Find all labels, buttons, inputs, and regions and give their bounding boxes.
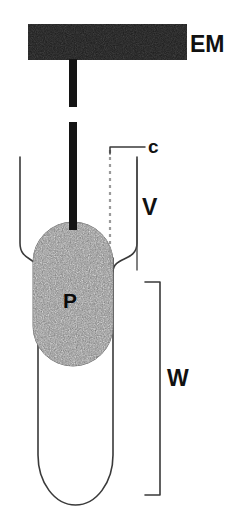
inner-vessel-wall-right [113,157,137,272]
rod-lower-segment [69,122,77,230]
figure-container: EM c V W P [0,0,239,524]
label-vessel: V [142,194,158,220]
label-outer-wall: W [167,365,189,391]
w-measurement-bracket [145,282,160,495]
apparatus-diagram: EM c V W P [0,0,239,524]
label-capillary: c [148,136,159,157]
electromagnet-bar [28,24,187,60]
label-electromagnet: EM [190,31,225,57]
capillary-leader-line [110,147,145,154]
rod-upper-segment [69,59,77,107]
label-plug: P [63,289,77,312]
